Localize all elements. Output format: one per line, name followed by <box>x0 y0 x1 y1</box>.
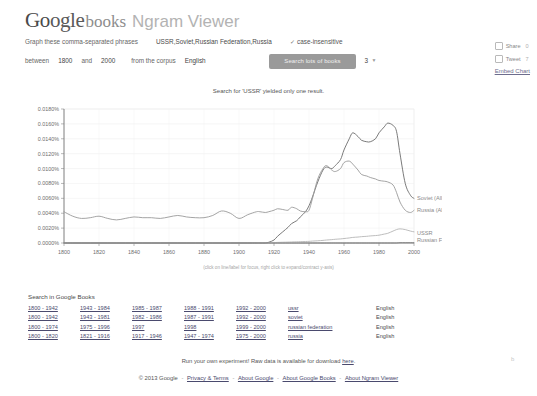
google-wordmark-go: Go <box>25 8 50 32</box>
ngram-chart[interactable]: 0.0000%0.0020%0.0040%0.0060%0.0080%0.010… <box>22 103 442 263</box>
books-wordmark: books <box>85 12 126 31</box>
chart-svg[interactable]: 0.0000%0.0020%0.0040%0.0060%0.0080%0.010… <box>22 103 442 263</box>
year-range-link[interactable]: 1800 - 1942 <box>28 305 58 311</box>
year-range-cell: 1917 - 1946 <box>132 333 184 342</box>
year-range-cell: 1992 - 2000 <box>236 314 288 323</box>
case-insensitive-checkbox[interactable]: ✓case-insensitive <box>290 38 342 46</box>
language-cell: English <box>376 333 428 342</box>
y-axis-tick-label: 0.0180% <box>38 106 59 112</box>
year-start-input[interactable]: 1800 <box>58 57 72 64</box>
footer-separator: - <box>231 375 236 381</box>
year-range-link[interactable]: 1997 <box>132 324 144 330</box>
phrases-input[interactable]: USSR,Soviet,Russian Federation,Russia <box>156 38 272 45</box>
year-range-cell: 1988 - 1991 <box>184 305 236 314</box>
x-axis-tick-label: 1900 <box>233 249 245 255</box>
x-axis-tick-label: 1820 <box>93 249 105 255</box>
year-range-link[interactable]: 1800 - 1942 <box>28 314 58 320</box>
twitter-icon <box>495 55 503 63</box>
year-range-cell: 1998 <box>184 324 236 333</box>
year-range-link[interactable]: 1943 - 1981 <box>80 314 110 320</box>
year-range-cell: 1800 - 1820 <box>28 333 80 342</box>
x-axis-tick-label: 1920 <box>268 249 280 255</box>
term-link[interactable]: russian federation <box>288 324 332 330</box>
smoothing-select-value[interactable]: 3 <box>361 57 371 64</box>
year-range-link[interactable]: 1800 - 1974 <box>28 324 58 330</box>
google-books-ngram-logo[interactable]: GooglebooksNgram Viewer <box>25 8 239 33</box>
footer-link[interactable]: About Google <box>238 375 273 381</box>
year-range-link[interactable]: 1985 - 1987 <box>132 305 162 311</box>
embed-chart-link[interactable]: Embed Chart <box>495 68 530 74</box>
share-button[interactable]: Share0 <box>495 42 530 50</box>
stray-artifact: b <box>511 356 514 362</box>
corpus-select-value[interactable]: English <box>185 57 282 64</box>
tweet-label: Tweet <box>506 56 521 62</box>
search-button[interactable]: Search lots of books <box>269 54 356 69</box>
term-link[interactable]: russia <box>288 333 303 339</box>
year-range-link[interactable]: 1988 - 1991 <box>184 305 214 311</box>
x-axis-tick-label: 1980 <box>373 249 385 255</box>
year-range-link[interactable]: 1982 - 1986 <box>132 314 162 320</box>
footer-link[interactable]: About Ngram Viewer <box>345 375 398 381</box>
y-axis-tick-label: 0.0020% <box>38 225 59 231</box>
year-range-cell: 1975 - 1996 <box>80 324 132 333</box>
year-range-link[interactable]: 1800 - 1820 <box>28 333 58 339</box>
google-wordmark-ogle: ogle <box>50 8 85 32</box>
x-axis-tick-label: 1840 <box>128 249 140 255</box>
year-range-link[interactable]: 1992 - 2000 <box>236 314 266 320</box>
year-range-cell: 1982 - 1986 <box>132 314 184 323</box>
corpus-label: from the corpus <box>131 57 175 64</box>
search-in-google-books-title: Search in Google Books <box>28 293 95 300</box>
chevron-down-icon-smoothing[interactable]: ▼ <box>371 57 376 63</box>
year-range-link[interactable]: 1943 - 1984 <box>80 305 110 311</box>
table-row: 1800 - 19421943 - 19841985 - 19871988 - … <box>28 305 428 314</box>
x-axis-tick-label: 1940 <box>303 249 315 255</box>
footer-link[interactable]: About Google Books <box>283 375 336 381</box>
chart-series-label[interactable]: Russia (All) <box>417 207 442 213</box>
year-range-cell: 1992 - 2000 <box>236 305 288 314</box>
year-range-link[interactable]: 1821 - 1916 <box>80 333 110 339</box>
chart-hint-text: (click on line/label for focus, right cl… <box>0 265 537 270</box>
year-range-cell: 1943 - 1981 <box>80 314 132 323</box>
year-range-link[interactable]: 1975 - 2000 <box>236 333 266 339</box>
run-experiment-line: Run your own experiment! Raw data is ava… <box>0 358 537 364</box>
footer-link[interactable]: Privacy & Terms <box>187 375 229 381</box>
y-axis-tick-label: 0.0000% <box>38 240 59 246</box>
term-link[interactable]: ussr <box>288 305 299 311</box>
x-axis-tick-label: 1960 <box>338 249 350 255</box>
year-range-link[interactable]: 1947 - 1974 <box>184 333 214 339</box>
term-cell: ussr <box>288 305 376 314</box>
language-label: English <box>376 305 394 311</box>
term-cell: soviet <box>288 314 376 323</box>
year-range-link[interactable]: 1987 - 1991 <box>184 314 214 320</box>
table-row: 1800 - 19741975 - 1996199719981999 - 200… <box>28 324 428 333</box>
term-cell: russia <box>288 333 376 342</box>
language-cell: English <box>376 324 428 333</box>
year-range-cell: 1985 - 1987 <box>132 305 184 314</box>
and-label: and <box>81 57 92 64</box>
term-link[interactable]: soviet <box>288 314 303 320</box>
google-wordmark: Google <box>25 8 84 32</box>
chart-series-label[interactable]: Soviet (All) <box>417 195 442 201</box>
footer-copyright: © 2013 Google - Privacy & Terms - About … <box>0 375 537 381</box>
term-cell: russian federation <box>288 324 376 333</box>
footer-separator: - <box>180 375 185 381</box>
y-axis-tick-label: 0.0120% <box>38 151 59 157</box>
year-range-link[interactable]: 1998 <box>184 324 196 330</box>
tweet-button[interactable]: Tweet7 <box>495 55 530 63</box>
chart-series-label[interactable]: USSR <box>417 230 433 236</box>
x-axis-tick-label: 1860 <box>163 249 175 255</box>
download-here-link[interactable]: here <box>342 358 354 364</box>
y-axis-tick-label: 0.0140% <box>38 136 59 142</box>
chart-series-label[interactable]: Russian Federation (All) <box>417 237 442 243</box>
y-axis-tick-label: 0.0080% <box>38 180 59 186</box>
year-range-link[interactable]: 1975 - 1996 <box>80 324 110 330</box>
ngram-viewer-page: GooglebooksNgram Viewer Graph these comm… <box>0 0 537 396</box>
year-range-cell: 1947 - 1974 <box>184 333 236 342</box>
year-range-link[interactable]: 1992 - 2000 <box>236 305 266 311</box>
year-range-link[interactable]: 1999 - 2000 <box>236 324 266 330</box>
year-end-input[interactable]: 2000 <box>101 57 115 64</box>
run-experiment-period: . <box>354 358 356 364</box>
year-range-link[interactable]: 1917 - 1946 <box>132 333 162 339</box>
ngram-viewer-title: Ngram Viewer <box>132 12 239 31</box>
language-label: English <box>376 333 394 339</box>
